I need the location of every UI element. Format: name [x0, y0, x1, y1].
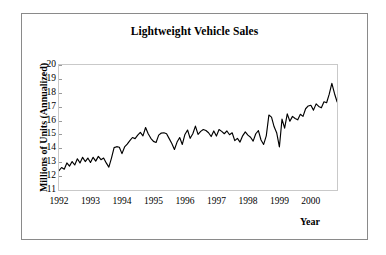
chart-figure: Lightweight Vehicle Sales Millions of Un…: [0, 0, 386, 255]
x-tick-label: 2000: [291, 196, 331, 206]
series-line-lightweight-vehicle-sales: [59, 83, 337, 170]
y-axis-ticks: [59, 66, 62, 191]
data-line-canvas: [59, 65, 337, 190]
plot-area: [58, 64, 338, 191]
